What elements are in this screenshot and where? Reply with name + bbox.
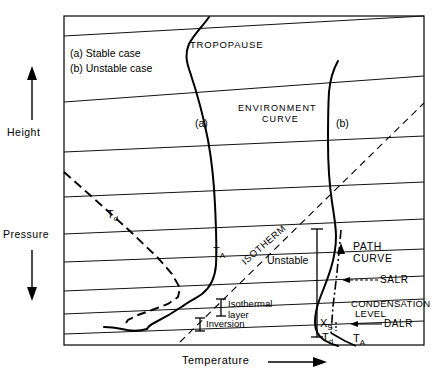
dewpoint-left-symbol: T — [107, 208, 114, 220]
pressure-axis-label: Pressure — [3, 229, 49, 240]
curve-a-label: (a) — [195, 118, 208, 129]
dewpoint-left-subscript: d — [114, 214, 118, 223]
inversion-label: Inversion — [206, 319, 245, 329]
temp-air-left-subscript: A — [220, 251, 225, 260]
inversion-segment-a — [104, 327, 147, 331]
temp-air-left-symbol: T — [213, 245, 220, 257]
dewpoint-right-subscript: d — [329, 337, 333, 346]
pressure-axis-arrow — [27, 250, 37, 301]
isothermal-layer-label-line1: Isothermal — [228, 299, 272, 309]
environment-curve-a — [183, 17, 216, 306]
temperature-axis-arrow — [268, 357, 327, 367]
temp-air-right-symbol: T — [353, 332, 360, 344]
dewpoint-right-label: Td — [322, 332, 333, 346]
dewpoint-right-symbol: T — [322, 331, 329, 343]
dewpoint-left-label: Td — [107, 209, 118, 223]
tropopause-label: TROPOPAUSE — [190, 40, 263, 50]
gridline — [64, 16, 424, 36]
dalr-label: DALR — [384, 319, 413, 329]
height-axis-arrow — [27, 66, 37, 120]
gridline — [64, 136, 424, 152]
gridline — [64, 76, 424, 102]
path-curve-arrow — [337, 243, 345, 254]
salr-label: SALR — [380, 275, 409, 285]
temp-air-left-label: TA — [213, 246, 225, 260]
path-curve-label-line1: PATH — [353, 241, 382, 252]
figure-diagram: (a) Stable case (b) Unstable case TROPOP… — [0, 0, 436, 372]
environment-curve-label-line1: ENVIRONMENT — [238, 104, 317, 113]
legend-unstable-case: (b) Unstable case — [70, 63, 152, 74]
environment-curve-label-line2: CURVE — [262, 115, 299, 124]
condensation-level-label-line2: LEVEL — [355, 309, 386, 319]
temperature-axis-label: Temperature — [182, 355, 249, 366]
path-curve-label-line2: CURVE — [353, 253, 393, 264]
dewpoint-curve-left — [64, 172, 180, 327]
curve-b-label: (b) — [336, 118, 349, 129]
temp-air-right-subscript: A — [360, 338, 365, 347]
unstable-label: Unstable — [267, 255, 308, 266]
legend-stable-case: (a) Stable case — [70, 48, 141, 59]
gridline — [64, 276, 424, 291]
height-axis-label: Height — [7, 127, 40, 138]
gridline — [64, 182, 424, 197]
temp-air-right-label: TA — [353, 333, 365, 347]
